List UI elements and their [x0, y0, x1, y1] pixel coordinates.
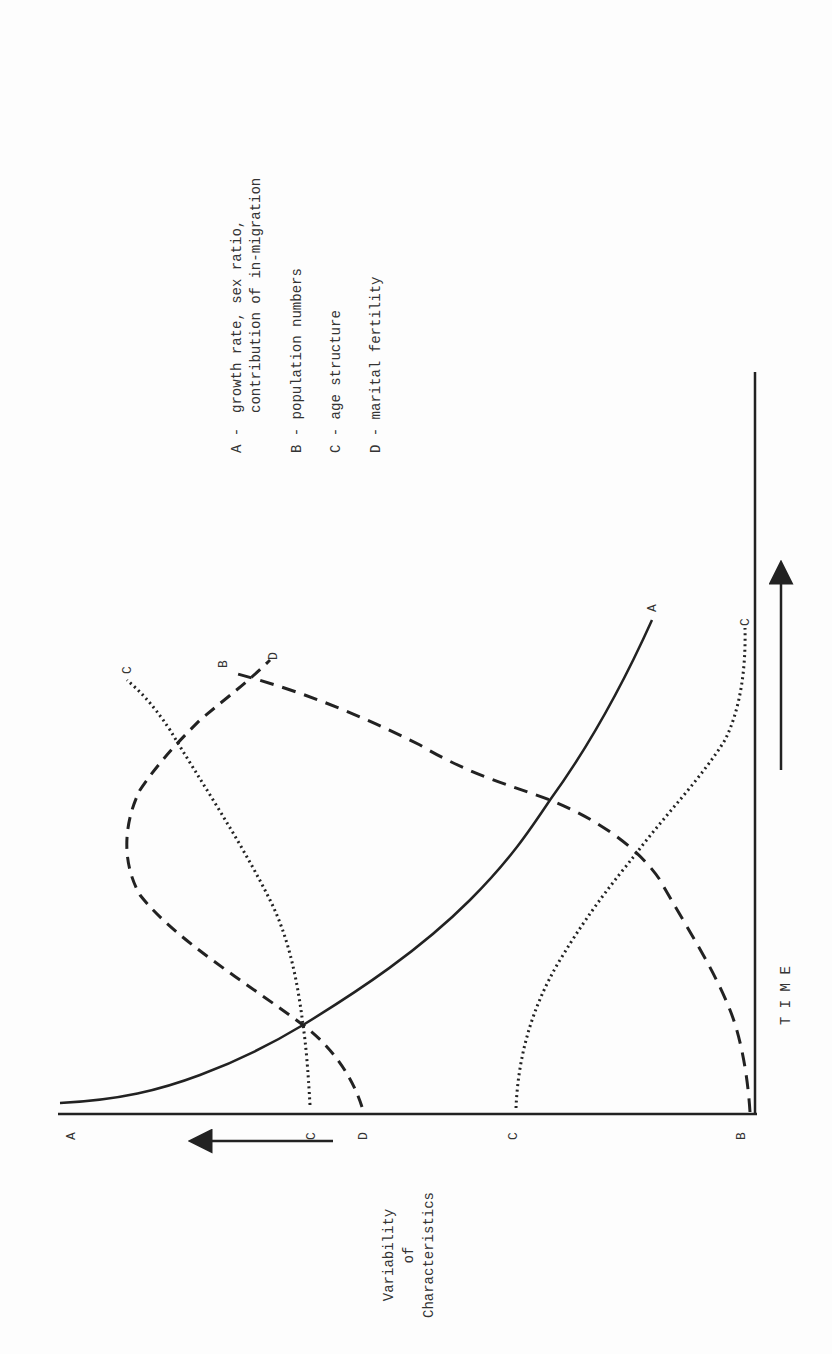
ylabel-line1: Variability: [381, 1209, 397, 1301]
end-label-c-upper: C: [120, 666, 135, 674]
curve-c-upper: [127, 680, 310, 1105]
end-label-c-lower: C: [738, 618, 753, 626]
time-axis-label: T I M E: [778, 966, 794, 1025]
legend-a-line1: growth rate, sex ratio,: [229, 220, 245, 413]
start-label-d: D: [356, 1132, 371, 1140]
start-label-c-upper: C: [304, 1132, 319, 1140]
diagram: A C D C B A C B D C T I M E Variability …: [0, 0, 832, 1354]
curve-c-lower: [516, 628, 745, 1108]
curve-a: [60, 620, 652, 1103]
curve-d: [127, 660, 362, 1107]
ylabel-line3: Characteristics: [421, 1192, 437, 1318]
end-label-b: B: [216, 660, 231, 668]
legend-d: D - marital fertility: [368, 277, 384, 453]
end-label-a: A: [645, 604, 660, 612]
legend-a-key: A -: [229, 428, 245, 453]
legend-c: C - age structure: [328, 310, 344, 453]
ylabel-line2: of: [401, 1247, 417, 1264]
legend-b: B - population numbers: [289, 268, 305, 453]
start-label-b: B: [734, 1132, 749, 1140]
legend: A - growth rate, sex ratio, contribution…: [229, 178, 384, 453]
start-label-a: A: [64, 1132, 79, 1140]
curve-b: [230, 672, 750, 1112]
end-label-d: D: [266, 652, 281, 660]
figure-page: A C D C B A C B D C T I M E Variability …: [0, 0, 832, 1354]
legend-a-line2: contribution of in-migration: [248, 178, 264, 413]
start-label-c-lower: C: [506, 1132, 521, 1140]
